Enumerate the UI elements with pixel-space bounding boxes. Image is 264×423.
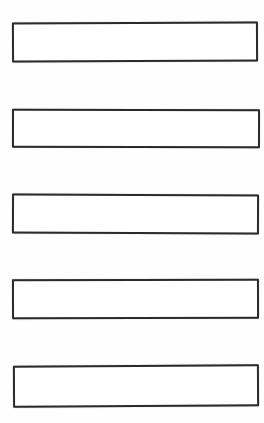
boxes-stack (0, 0, 264, 423)
box-3 (12, 194, 259, 235)
box-1 (12, 21, 258, 62)
box-5 (13, 364, 259, 407)
box-4 (12, 279, 259, 320)
box-2 (12, 109, 260, 148)
